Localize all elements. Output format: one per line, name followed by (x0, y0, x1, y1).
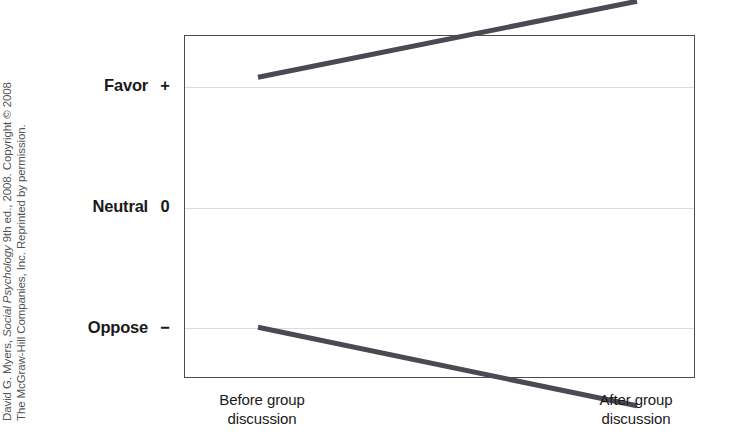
y-axis-label-oppose: Oppose − (58, 316, 176, 338)
y-axis-label-oppose-text: Oppose (88, 318, 148, 337)
y-axis-label-neutral-symbol: 0 (154, 197, 176, 216)
y-axis-label-favor: Favor + (58, 75, 176, 97)
data-lines (184, 35, 695, 378)
series-line-favoring (258, 1, 637, 77)
x-axis-label-before-line1: Before group (182, 390, 342, 409)
x-axis-label-before-line2: discussion (182, 409, 342, 428)
x-axis-label-after-line2: discussion (556, 409, 716, 428)
y-axis-label-favor-text: Favor (104, 76, 148, 95)
x-axis-label-before: Before group discussion (182, 390, 342, 428)
y-axis-label-neutral: Neutral 0 (58, 196, 176, 218)
y-axis-label-neutral-text: Neutral (93, 197, 148, 216)
y-axis-label-favor-symbol: + (154, 76, 176, 95)
x-axis-label-after-line1: After group (556, 390, 716, 409)
x-axis-label-after: After group discussion (556, 390, 716, 428)
polarization-line-chart: Favor + Neutral 0 Oppose − Before group … (0, 0, 735, 445)
y-axis-label-oppose-symbol: − (154, 318, 176, 337)
